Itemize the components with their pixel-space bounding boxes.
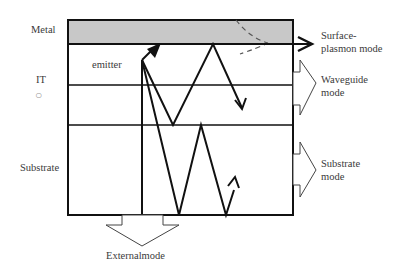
emitter-to-metal-arrowhead-icon [147, 43, 161, 58]
substrate-label: Substrate [20, 161, 59, 174]
external-mode-label: Externalmode [106, 249, 165, 262]
emitter-rays [142, 44, 242, 215]
external-mode-arrow-icon [106, 215, 179, 246]
surface-plasmon-mode-label-line2: plasmon mode [321, 42, 383, 55]
substrate-mode-label-line2: mode [321, 170, 344, 183]
substrate-ray-arrowhead-icon [228, 177, 239, 188]
metal-label: Metal [31, 23, 56, 36]
waveguide-mode-label-line1: Waveguide [321, 73, 368, 86]
emitter-label: emitter [92, 58, 122, 71]
metal-layer [68, 20, 293, 44]
substrate-mode-arrow-icon [293, 142, 316, 197]
surface-plasmon-mode-label-line1: Surface- [321, 29, 357, 42]
substrate-mode-label-line1: Substrate [321, 157, 360, 170]
ito-label: IT [36, 73, 46, 86]
waveguide-mode-arrow-icon [293, 60, 316, 115]
ito-circle-icon: ○ [35, 89, 42, 102]
waveguide-mode-label-line2: mode [321, 86, 344, 99]
device-stack-outline [68, 20, 293, 215]
